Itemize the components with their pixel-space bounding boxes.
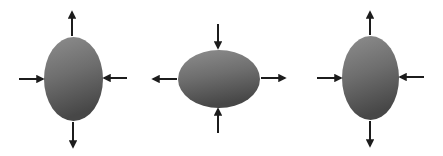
ellipse-vertical xyxy=(342,36,399,120)
ellipse-horizontal xyxy=(178,50,260,108)
oscillation-diagram xyxy=(0,0,443,156)
ellipse-vertical xyxy=(44,37,103,121)
